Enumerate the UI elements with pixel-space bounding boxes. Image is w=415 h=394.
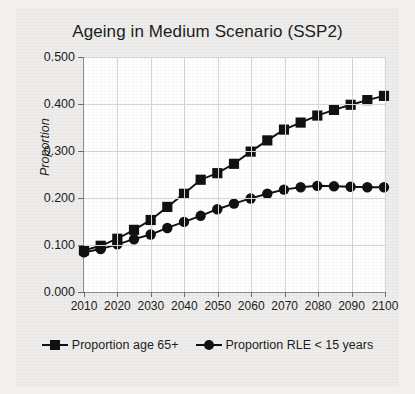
gridline-vertical bbox=[117, 57, 118, 292]
x-axis-tick bbox=[117, 292, 118, 297]
x-axis-tick bbox=[218, 292, 219, 297]
x-axis-tick bbox=[184, 292, 185, 297]
x-axis-tick-label: 2070 bbox=[271, 299, 298, 313]
data-point-marker bbox=[296, 117, 306, 127]
gridline-vertical bbox=[318, 57, 319, 292]
x-axis-tick bbox=[151, 292, 152, 297]
data-point-marker bbox=[196, 175, 206, 185]
gridline-vertical bbox=[352, 57, 353, 292]
data-point-marker bbox=[162, 223, 172, 233]
data-point-marker bbox=[79, 247, 89, 257]
x-axis-tick-label: 2060 bbox=[238, 299, 265, 313]
data-point-marker bbox=[129, 234, 139, 244]
x-axis-tick bbox=[285, 292, 286, 297]
gridline-vertical bbox=[385, 57, 386, 292]
plot-area: 0.0000.1000.2000.3000.4000.5002010202020… bbox=[83, 57, 385, 293]
y-axis-tick-label: 0.400 bbox=[44, 97, 75, 111]
gridline-vertical bbox=[184, 57, 185, 292]
data-point-marker bbox=[129, 225, 139, 235]
x-axis-tick bbox=[385, 292, 386, 297]
data-point-marker bbox=[229, 159, 239, 169]
y-axis-tick bbox=[78, 104, 84, 105]
x-axis-tick-label: 2030 bbox=[138, 299, 165, 313]
y-axis-tick-label: 0.500 bbox=[44, 50, 75, 64]
data-point-marker bbox=[295, 182, 305, 192]
y-axis-tick bbox=[78, 57, 84, 58]
x-axis-tick-label: 2020 bbox=[104, 299, 131, 313]
chart-legend: Proportion age 65+ Proportion RLE < 15 y… bbox=[16, 338, 399, 352]
data-point-marker bbox=[329, 181, 339, 191]
x-axis-tick bbox=[84, 292, 85, 297]
legend-item-rle-under-15[interactable]: Proportion RLE < 15 years bbox=[196, 338, 374, 352]
chart-page: Ageing in Medium Scenario (SSP2) Proport… bbox=[16, 8, 399, 386]
data-point-marker bbox=[262, 135, 272, 145]
y-axis-tick-label: 0.100 bbox=[44, 238, 75, 252]
y-axis-tick-label: 0.200 bbox=[44, 191, 75, 205]
series-layer bbox=[84, 57, 385, 292]
data-point-marker bbox=[229, 198, 239, 208]
x-axis-tick-label: 2100 bbox=[372, 299, 399, 313]
y-axis-tick bbox=[78, 151, 84, 152]
y-axis-tick-label: 0.300 bbox=[44, 144, 75, 158]
gridline-vertical bbox=[251, 57, 252, 292]
chart-title: Ageing in Medium Scenario (SSP2) bbox=[16, 22, 399, 42]
x-axis-tick-label: 2040 bbox=[171, 299, 198, 313]
gridline-vertical bbox=[285, 57, 286, 292]
data-point-marker bbox=[162, 202, 172, 212]
data-point-marker bbox=[329, 105, 339, 115]
gridline-vertical bbox=[151, 57, 152, 292]
legend-label: Proportion RLE < 15 years bbox=[226, 338, 374, 352]
data-point-marker bbox=[379, 182, 389, 192]
gridline-vertical bbox=[218, 57, 219, 292]
x-axis-tick bbox=[318, 292, 319, 297]
x-axis-tick-label: 2010 bbox=[71, 299, 98, 313]
gridline-horizontal bbox=[84, 57, 385, 58]
data-point-marker bbox=[379, 91, 389, 101]
series-line-1 bbox=[84, 186, 384, 253]
data-point-marker bbox=[195, 211, 205, 221]
y-axis-tick bbox=[78, 198, 84, 199]
gridline-horizontal bbox=[84, 245, 385, 246]
x-axis-tick-label: 2050 bbox=[204, 299, 231, 313]
gridline-horizontal bbox=[84, 104, 385, 105]
x-axis-tick bbox=[352, 292, 353, 297]
circle-marker-icon bbox=[196, 339, 222, 351]
square-marker-icon bbox=[42, 339, 68, 351]
y-axis-tick bbox=[78, 245, 84, 246]
gridline-horizontal bbox=[84, 198, 385, 199]
legend-item-age-65-plus[interactable]: Proportion age 65+ bbox=[42, 338, 179, 352]
data-point-marker bbox=[362, 182, 372, 192]
x-axis-tick-label: 2090 bbox=[338, 299, 365, 313]
x-axis-tick-label: 2080 bbox=[305, 299, 332, 313]
legend-label: Proportion age 65+ bbox=[72, 338, 179, 352]
x-axis-tick bbox=[251, 292, 252, 297]
y-axis-tick-label: 0.000 bbox=[44, 285, 75, 299]
gridline-horizontal bbox=[84, 151, 385, 152]
